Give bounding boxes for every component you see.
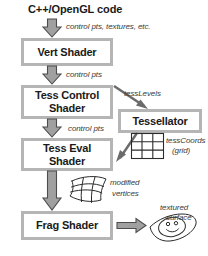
arrow-frag-to-textured-surface xyxy=(117,219,146,233)
stage-box-tess-control-shader[interactable]: Tess Control Shader xyxy=(21,85,113,119)
edge-label-tess-levels: tessLevels xyxy=(124,89,161,98)
output-label-textured-line1: textured xyxy=(160,203,188,212)
arrow-code-to-vert-shader xyxy=(43,19,61,37)
arrow-tess-control-to-tess-eval xyxy=(43,119,61,137)
edge-label-control-pts-2: control pts xyxy=(68,124,104,133)
warped-mesh-icon xyxy=(70,177,106,203)
arrow-tessellator-to-tess-eval xyxy=(116,133,137,162)
arrow-vert-to-tess-control xyxy=(43,66,61,84)
output-label-textured-line2: surface xyxy=(166,213,192,222)
stage-box-tessellator[interactable]: Tessellator xyxy=(118,109,202,133)
grid-icon xyxy=(132,134,164,159)
edge-label-control-pts-1: control pts xyxy=(66,70,102,79)
edge-label-control-pts-textures: control pts, textures, etc. xyxy=(66,22,150,31)
stage-box-vert-shader[interactable]: Vert Shader xyxy=(21,38,113,66)
stage-box-frag-shader[interactable]: Frag Shader xyxy=(21,211,113,240)
edge-label-tess-coords-line1: tessCoords xyxy=(166,136,205,145)
header-title: C++/OpenGL code xyxy=(28,3,122,15)
pipeline-diagram: C++/OpenGL code Vert Shader Tess Control… xyxy=(0,0,208,256)
arrow-tess-eval-to-frag xyxy=(43,171,61,210)
edge-label-modified-line1: modified xyxy=(110,178,139,187)
edge-label-modified-line2: vertices xyxy=(112,189,139,198)
edge-label-tess-coords-line2: (grid) xyxy=(172,146,190,155)
stage-box-tess-eval-shader[interactable]: Tess Eval Shader xyxy=(21,138,113,171)
